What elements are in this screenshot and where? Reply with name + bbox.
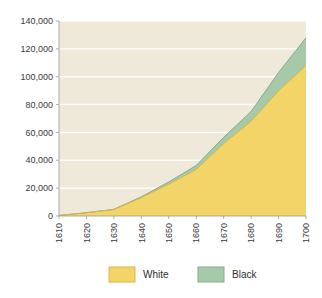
legend-swatch-black[interactable] [198, 267, 224, 282]
legend-label-white: White [143, 269, 169, 280]
stacked-area-chart: 020,00040,00060,00080,000100,000120,0001… [0, 0, 322, 298]
y-axis-tick-label: 120,000 [20, 44, 53, 54]
x-axis-tick-label: 1660 [191, 223, 201, 243]
chart-canvas: 020,00040,00060,00080,000100,000120,0001… [0, 0, 322, 298]
y-axis-tick-label: 80,000 [25, 100, 53, 110]
y-axis-tick-label: 20,000 [25, 183, 53, 193]
x-axis-tick-label: 1610 [54, 223, 64, 243]
x-axis-tick-label: 1620 [82, 223, 92, 243]
legend-swatch-white[interactable] [109, 267, 135, 282]
legend-label-black: Black [232, 269, 257, 280]
x-axis-tick-label: 1680 [246, 223, 256, 243]
y-axis-tick-label: 40,000 [25, 155, 53, 165]
x-axis-tick-label: 1690 [274, 223, 284, 243]
x-axis-tick-label: 1630 [109, 223, 119, 243]
y-axis-tick-label: 0 [48, 211, 53, 221]
y-axis-tick-label: 100,000 [20, 72, 53, 82]
x-axis-tick-label: 1670 [219, 223, 229, 243]
x-axis-tick-label: 1640 [137, 223, 147, 243]
y-axis-tick-label: 140,000 [20, 16, 53, 26]
x-axis-tick-label: 1700 [301, 223, 311, 243]
x-axis-tick-label: 1650 [164, 223, 174, 243]
y-axis-tick-label: 60,000 [25, 128, 53, 138]
